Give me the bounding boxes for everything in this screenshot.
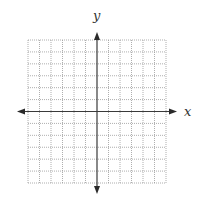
y-axis-label: y: [92, 8, 101, 23]
x-axis-label: x: [184, 104, 192, 119]
y-axis-up-arrow-icon: [94, 32, 100, 40]
coordinate-plane: x y: [0, 0, 202, 204]
x-axis-left-arrow-icon: [17, 109, 25, 115]
y-axis-down-arrow-icon: [94, 186, 100, 194]
x-axis-right-arrow-icon: [169, 109, 177, 115]
